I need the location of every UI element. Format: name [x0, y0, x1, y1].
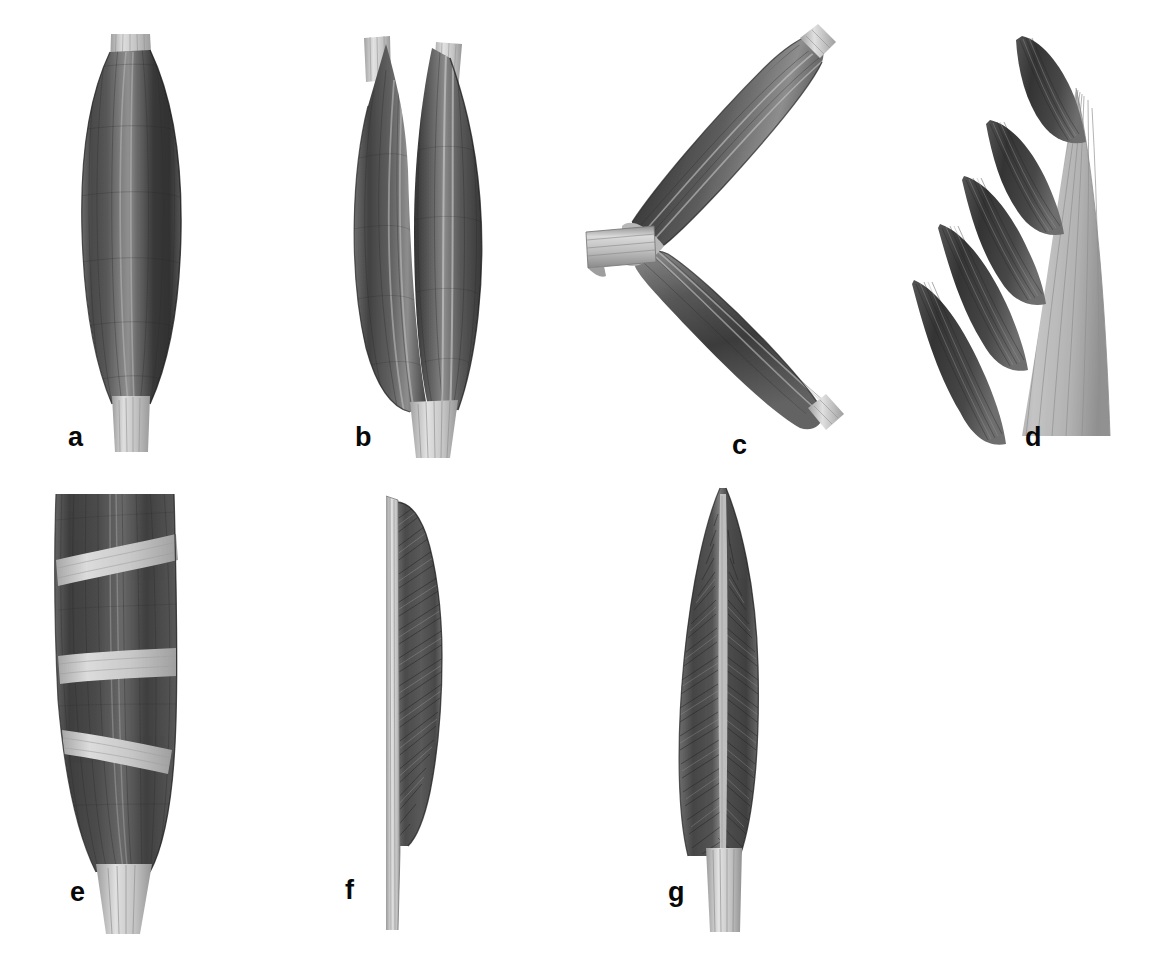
- serratus-muscle-illustration: [880, 0, 1162, 470]
- digastric-muscle-illustration: [560, 0, 890, 470]
- muscle-architecture-figure: a: [0, 0, 1162, 953]
- panel-label-c: c: [732, 432, 747, 459]
- fusiform-lower-tendon: [112, 396, 150, 452]
- panel-label-a: a: [68, 424, 83, 451]
- digastric-anterior-belly: [634, 246, 844, 430]
- digastric-posterior-belly: [632, 24, 836, 248]
- serratus-digitation: [1016, 36, 1086, 143]
- panel-a-fusiform-muscle: a: [0, 0, 290, 470]
- panel-label-b: b: [355, 424, 372, 451]
- panel-e-polygastric-muscle: e: [0, 460, 290, 953]
- panel-g-bipennate-muscle: g: [600, 460, 900, 953]
- fusiform-belly: [80, 48, 183, 404]
- polygastric-body: [55, 490, 178, 876]
- panel-label-f: f: [345, 877, 354, 904]
- fusiform-muscle-illustration: [0, 0, 290, 470]
- bipennate-muscle-illustration: [600, 460, 900, 953]
- bicipital-distal-tendon: [410, 400, 458, 458]
- unipennate-tendon: [386, 496, 400, 930]
- polygastric-tendon: [96, 864, 152, 934]
- panel-b-bicipital-muscle: b: [290, 0, 580, 470]
- bicipital-muscle-illustration: [290, 0, 580, 470]
- panel-label-d: d: [1025, 424, 1042, 451]
- bicipital-right-belly: [414, 48, 482, 414]
- bipennate-belly: [679, 488, 758, 858]
- unipennate-muscle-illustration: [290, 460, 590, 953]
- unipennate-belly: [396, 500, 446, 846]
- panel-c-digastric-muscle: c: [560, 0, 890, 470]
- panel-d-serratus-muscle: d: [880, 0, 1162, 470]
- panel-label-g: g: [668, 879, 685, 906]
- bipennate-central-raphe: [719, 494, 728, 856]
- panel-label-e: e: [70, 879, 85, 906]
- panel-f-unipennate-muscle: f: [290, 460, 590, 953]
- polygastric-muscle-illustration: [0, 460, 290, 953]
- bipennate-tendon: [706, 848, 742, 932]
